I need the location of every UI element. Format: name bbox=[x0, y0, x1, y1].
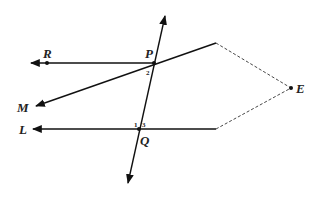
point-e bbox=[289, 86, 293, 90]
label-r: R bbox=[42, 46, 52, 61]
angle-1-label: 1 bbox=[134, 121, 138, 129]
dashed-segment-lower bbox=[216, 88, 291, 129]
point-p bbox=[152, 61, 156, 65]
label-q: Q bbox=[140, 133, 150, 148]
dashed-segment-upper bbox=[216, 43, 291, 88]
geometry-diagram: R P M L Q E 2 1 3 bbox=[0, 0, 320, 197]
label-p: P bbox=[145, 46, 154, 61]
point-r bbox=[45, 61, 49, 65]
angle-3-label: 3 bbox=[142, 121, 146, 129]
point-q bbox=[137, 127, 141, 131]
line-pm bbox=[36, 43, 216, 106]
label-e: E bbox=[295, 81, 305, 96]
transversal-line bbox=[128, 16, 165, 183]
angle-2-label: 2 bbox=[146, 69, 150, 77]
label-l: L bbox=[18, 122, 27, 137]
label-m: M bbox=[16, 100, 29, 115]
